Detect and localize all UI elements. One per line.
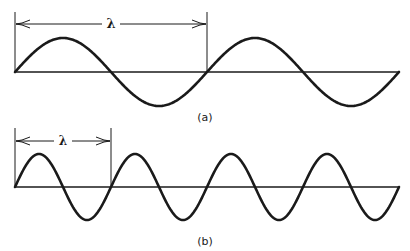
caption-a: (a): [197, 111, 212, 124]
panel-b: λ (b): [15, 128, 399, 248]
wave-diagram: λ (a) λ (b): [0, 0, 410, 251]
panel-a: λ (a): [15, 12, 399, 124]
wavelength-label-b: λ: [59, 134, 67, 148]
caption-b: (b): [197, 235, 213, 248]
wavelength-label-a: λ: [106, 16, 115, 31]
